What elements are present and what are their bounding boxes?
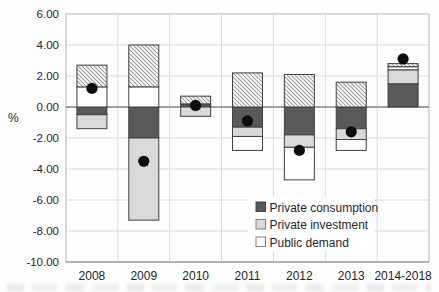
- x-tick-label: 2012: [286, 269, 313, 283]
- gdp-dot: [242, 115, 253, 126]
- gdp-contributions-chart: 6.004.002.000.00-2.00-4.00-6.00-8.00-10.…: [0, 0, 439, 292]
- legend-item-private-consumption: Private consumption: [256, 201, 378, 215]
- x-axis: 2008200920102011201220132014-2018: [79, 269, 433, 283]
- legend-label: Private consumption: [270, 201, 379, 215]
- x-tick-label: 2014-2018: [374, 269, 432, 283]
- y-tick-label: -8.00: [33, 225, 59, 237]
- bar-segment: [284, 74, 314, 107]
- y-tick-label: -6.00: [33, 194, 59, 206]
- y-axis: 6.004.002.000.00-2.00-4.00-6.00-8.00-10.…: [8, 8, 59, 268]
- gdp-dot: [190, 100, 201, 111]
- bar-segment: [284, 107, 314, 135]
- legend-swatch-icon: [256, 237, 266, 247]
- gdp-dot: [346, 126, 357, 137]
- chart-svg: 6.004.002.000.00-2.00-4.00-6.00-8.00-10.…: [0, 0, 439, 292]
- y-tick-label: -4.00: [33, 163, 59, 175]
- bar-segment: [129, 107, 159, 138]
- bar-2008: [77, 65, 107, 129]
- bar-segment: [129, 138, 159, 220]
- chart-page: 6.004.002.000.00-2.00-4.00-6.00-8.00-10.…: [0, 0, 439, 292]
- legend-swatch-icon: [256, 202, 266, 212]
- x-tick-label: 2011: [235, 269, 261, 283]
- y-tick-label: 4.00: [37, 39, 59, 51]
- gdp-dot: [294, 145, 305, 156]
- legend: Private consumptionPrivate investmentPub…: [248, 197, 378, 251]
- bar-segment: [77, 107, 107, 115]
- bar-2012: [284, 74, 314, 179]
- legend-item-private-investment: Private investment: [256, 218, 369, 232]
- bar-2009: [129, 45, 159, 220]
- gdp-dot: [397, 53, 408, 64]
- bar-segment: [233, 127, 263, 136]
- y-tick-label: -10.00: [26, 256, 59, 268]
- bar-segment: [388, 84, 418, 107]
- x-tick-label: 2013: [338, 269, 365, 283]
- legend-label: Private investment: [270, 218, 369, 232]
- y-tick-label: 0.00: [37, 101, 59, 113]
- bar-segment: [388, 70, 418, 84]
- gdp-dot: [138, 156, 149, 167]
- x-tick-label: 2008: [79, 269, 106, 283]
- bar-2014-2018: [388, 64, 418, 107]
- bar-segment: [77, 115, 107, 129]
- x-tick-label: 2010: [182, 269, 209, 283]
- gdp-dot: [86, 83, 97, 94]
- bar-2013: [336, 82, 366, 150]
- y-tick-label: 2.00: [37, 70, 59, 82]
- bars: [77, 45, 418, 220]
- bar-segment: [336, 140, 366, 151]
- bar-segment: [336, 107, 366, 129]
- legend-swatch-icon: [256, 220, 266, 230]
- bar-segment: [233, 73, 263, 107]
- bar-segment: [129, 87, 159, 107]
- bar-segment: [336, 82, 366, 107]
- legend-label: Public demand: [270, 236, 349, 250]
- bar-2011: [233, 73, 263, 150]
- x-tick-label: 2009: [130, 269, 157, 283]
- y-tick-label: 6.00: [37, 8, 59, 20]
- legend-item-public-demand: Public demand: [256, 236, 349, 250]
- bar-segment: [129, 45, 159, 87]
- cropped-caption-text: [6, 284, 431, 291]
- y-axis-title: %: [8, 111, 19, 125]
- bar-segment: [233, 136, 263, 150]
- y-tick-label: -2.00: [33, 132, 59, 144]
